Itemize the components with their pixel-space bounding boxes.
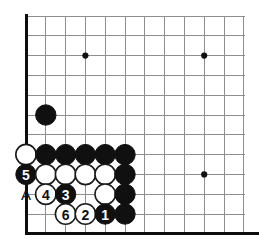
- stone-black-move-3[interactable]: 3: [55, 184, 75, 204]
- move-number-5: 5: [22, 167, 30, 183]
- stone-black[interactable]: [75, 144, 95, 164]
- stone-white-disc: [16, 144, 36, 164]
- stone-white-move-6[interactable]: 6: [55, 204, 75, 224]
- stone-black-disc: [115, 204, 135, 224]
- move-number-1: 1: [101, 207, 109, 223]
- stone-white-disc: [95, 184, 115, 204]
- stone-black-disc: [55, 144, 75, 164]
- stone-black[interactable]: [55, 144, 75, 164]
- stone-black-disc: [115, 144, 135, 164]
- stone-black-disc: [115, 164, 135, 184]
- stone-black-move-1[interactable]: 1: [95, 204, 115, 224]
- stone-black[interactable]: [36, 105, 56, 125]
- star-point: [82, 53, 88, 59]
- stone-black[interactable]: [36, 144, 56, 164]
- stone-white-disc: [36, 164, 56, 184]
- move-number-6: 6: [62, 207, 70, 223]
- stone-white[interactable]: [95, 184, 115, 204]
- stone-white-move-4[interactable]: 4: [36, 184, 56, 204]
- stone-black-disc: [36, 105, 56, 125]
- move-number-2: 2: [82, 207, 90, 223]
- stone-black-disc: [75, 144, 95, 164]
- point-marker-a: A: [21, 186, 31, 203]
- star-point: [201, 53, 207, 59]
- stone-white[interactable]: [36, 164, 56, 184]
- stone-black[interactable]: [115, 184, 135, 204]
- stone-black-disc: [36, 144, 56, 164]
- move-number-4: 4: [42, 187, 50, 203]
- go-board-canvas: A 543621: [0, 0, 259, 250]
- stone-white-disc: [55, 164, 75, 184]
- stone-black-disc: [95, 144, 115, 164]
- stone-black[interactable]: [115, 144, 135, 164]
- stone-white[interactable]: [75, 164, 95, 184]
- stone-white-disc: [95, 164, 115, 184]
- point-markers: A: [21, 186, 31, 203]
- stone-white-disc: [75, 164, 95, 184]
- stone-white-move-2[interactable]: 2: [75, 204, 95, 224]
- stones-layer: 543621: [16, 105, 135, 224]
- stone-black-disc: [115, 184, 135, 204]
- stone-black[interactable]: [115, 164, 135, 184]
- go-board-figure: A 543621: [0, 0, 259, 250]
- stone-black[interactable]: [95, 144, 115, 164]
- move-number-3: 3: [62, 187, 70, 203]
- stone-black-move-5[interactable]: 5: [16, 164, 36, 184]
- stone-black[interactable]: [115, 204, 135, 224]
- stone-white[interactable]: [95, 164, 115, 184]
- stone-white[interactable]: [16, 144, 36, 164]
- stone-white[interactable]: [55, 164, 75, 184]
- star-point: [201, 171, 207, 177]
